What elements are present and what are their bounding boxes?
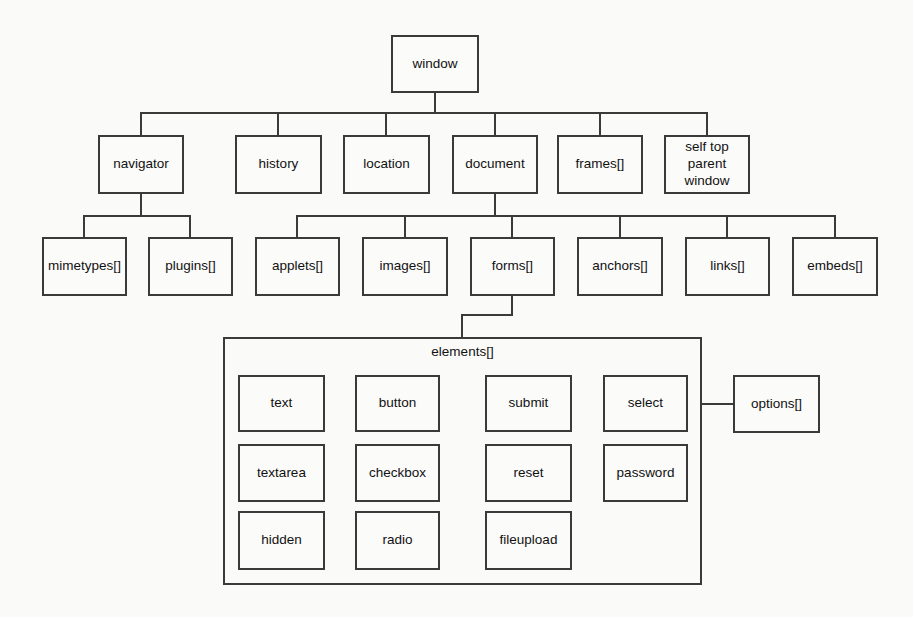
node-radio: radio bbox=[355, 511, 440, 570]
node-submit: submit bbox=[485, 375, 572, 432]
node-frames: frames[] bbox=[557, 135, 643, 194]
diagram-page: { "diagram": { "type": "hierarchy-tree",… bbox=[0, 0, 913, 617]
node-select: select bbox=[603, 375, 688, 432]
node-anchors: anchors[] bbox=[577, 237, 663, 296]
node-location: location bbox=[343, 135, 430, 194]
node-reset: reset bbox=[485, 444, 572, 502]
node-navigator: navigator bbox=[98, 135, 184, 194]
node-password: password bbox=[603, 444, 688, 502]
node-text: text bbox=[238, 375, 325, 432]
node-embeds: embeds[] bbox=[792, 237, 878, 296]
node-mimetypes: mimetypes[] bbox=[42, 237, 127, 296]
node-links: links[] bbox=[685, 237, 770, 296]
node-document: document bbox=[452, 135, 538, 194]
node-forms: forms[] bbox=[470, 237, 555, 296]
node-textarea: textarea bbox=[238, 444, 325, 502]
node-button: button bbox=[355, 375, 440, 432]
node-images: images[] bbox=[362, 237, 448, 296]
node-applets: applets[] bbox=[255, 237, 340, 296]
node-window: window bbox=[391, 35, 479, 93]
node-plugins: plugins[] bbox=[148, 237, 233, 296]
node-fileupload: fileupload bbox=[485, 511, 572, 570]
elements-container-label: elements[] bbox=[223, 344, 702, 359]
node-self-top-parent-window: self top parent window bbox=[664, 135, 750, 194]
node-checkbox: checkbox bbox=[355, 444, 440, 502]
node-history: history bbox=[235, 135, 322, 194]
node-hidden: hidden bbox=[238, 511, 325, 570]
node-options: options[] bbox=[733, 375, 820, 433]
